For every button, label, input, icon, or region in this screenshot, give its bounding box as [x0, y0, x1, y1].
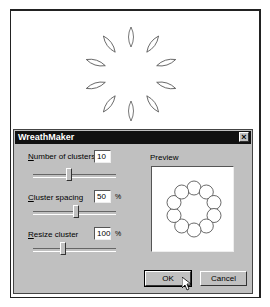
- resize-cluster-slider-thumb[interactable]: [60, 242, 66, 255]
- cancel-button[interactable]: Cancel: [200, 271, 247, 286]
- close-icon: ×: [241, 132, 246, 142]
- petal-wreath-drawing: [0, 0, 270, 130]
- resize-cluster-slider-track[interactable]: [33, 248, 116, 252]
- resize-cluster-unit: %: [115, 230, 121, 237]
- petal-shape: [86, 80, 107, 91]
- petal-shape: [101, 35, 117, 54]
- dialog-title: WreathMaker: [18, 132, 74, 142]
- petal-shape: [86, 57, 107, 68]
- number-of-clusters-slider-track[interactable]: [33, 174, 116, 178]
- petal-shape: [145, 94, 161, 113]
- petal-shape: [156, 80, 177, 91]
- petal-shape: [145, 35, 161, 54]
- cluster-spacing-unit: %: [115, 193, 121, 200]
- number-of-clusters-input[interactable]: 10: [94, 150, 111, 163]
- cluster-spacing-label: Cluster spacing: [28, 193, 83, 202]
- preview-circle: [187, 181, 201, 195]
- wreathmaker-dialog: WreathMaker × Number of clusters 10 Clus…: [13, 129, 253, 294]
- cluster-spacing-slider-thumb[interactable]: [73, 205, 79, 218]
- resize-cluster-input[interactable]: 100: [94, 227, 111, 240]
- close-button[interactable]: ×: [239, 132, 249, 142]
- cluster-spacing-input[interactable]: 50: [94, 190, 111, 203]
- preview-pane: [151, 166, 234, 252]
- preview-label: Preview: [150, 153, 178, 162]
- preview-wreath: [152, 167, 233, 251]
- petal-shape: [101, 94, 117, 113]
- preview-circle: [187, 223, 201, 237]
- mouse-cursor-icon: [182, 277, 192, 291]
- dialog-titlebar[interactable]: WreathMaker ×: [15, 131, 251, 144]
- preview-circle: [167, 209, 181, 223]
- number-of-clusters-slider-thumb[interactable]: [66, 168, 72, 181]
- preview-circle: [199, 219, 213, 233]
- preview-circle: [207, 196, 221, 210]
- preview-circle: [175, 185, 189, 199]
- petal-shape: [129, 27, 134, 47]
- number-of-clusters-label: Number of clusters: [28, 152, 95, 161]
- petal-shape: [156, 57, 177, 68]
- petal-shape: [129, 101, 134, 121]
- resize-cluster-label: Resize cluster: [28, 230, 78, 239]
